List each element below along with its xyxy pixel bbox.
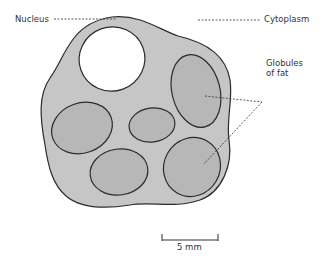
fat-cell-diagram: Nucleus Cytoplasm Globules of fat 5 mm [0,0,325,266]
globules-label-line2: of fat [266,68,303,78]
scale-bar-label: 5 mm [177,242,202,252]
globules-label-line1: Globules [266,58,303,68]
nucleus-label: Nucleus [15,14,49,24]
cell-illustration [0,0,325,266]
globules-of-fat-label: Globules of fat [266,58,303,78]
cytoplasm-label: Cytoplasm [264,14,309,24]
scale-bar [162,234,218,241]
